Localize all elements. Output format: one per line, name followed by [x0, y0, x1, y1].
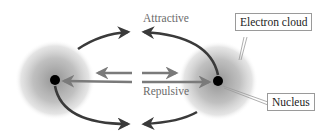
- electron-cloud-callout: Electron cloud: [235, 13, 312, 31]
- nucleus-callout: Nucleus: [267, 93, 315, 111]
- attractive-arrow-bottom-right: [144, 112, 197, 124]
- right-nucleus: [213, 76, 223, 86]
- repulsive-label: Repulsive: [143, 85, 189, 97]
- attractive-label: Attractive: [143, 12, 189, 24]
- attractive-arrow-top-left: [78, 32, 128, 49]
- repulsive-arrow-lower-left: [64, 81, 132, 82]
- left-nucleus: [50, 75, 60, 85]
